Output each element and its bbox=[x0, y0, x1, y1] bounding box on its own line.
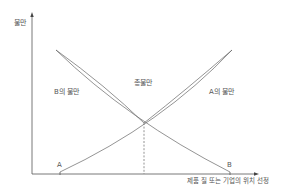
dissatisfaction-diagram bbox=[0, 0, 291, 192]
x-axis-label: 제품 질 또는 기업의 위치 선정 bbox=[187, 178, 269, 185]
point-a-label: A bbox=[57, 162, 62, 169]
total-dissatisfaction-label: 총불만 bbox=[134, 80, 152, 87]
curve-b-dissatisfaction bbox=[56, 50, 230, 172]
b-dissatisfaction-label: B의 불만 bbox=[54, 89, 79, 96]
y-axis-arrow-icon bbox=[30, 12, 33, 17]
curve-total-dissatisfaction-right bbox=[144, 50, 232, 123]
curve-a-dissatisfaction bbox=[60, 50, 232, 172]
a-dissatisfaction-label: A의 불만 bbox=[209, 89, 234, 96]
point-b-label: B bbox=[227, 162, 232, 169]
y-axis-label: 불만 bbox=[14, 20, 26, 27]
x-axis-arrow-icon bbox=[254, 172, 259, 175]
